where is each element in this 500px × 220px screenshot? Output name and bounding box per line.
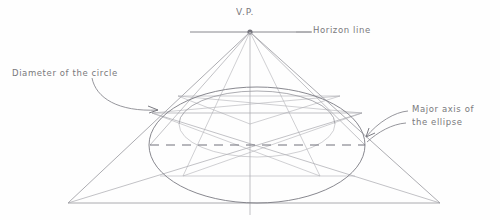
major-axis-label: Major axis of the ellipse [412, 103, 474, 129]
diameter-of-circle-label: Diameter of the circle [12, 67, 118, 80]
horizon-line-label: Horizon line [313, 24, 371, 37]
diameter-arrowhead [148, 106, 158, 113]
major-axis-label-line1: Major axis of [412, 104, 474, 114]
perspective-ray-left-outer [68, 32, 250, 203]
diameter-leader-line [92, 78, 158, 110]
perspective-ray-right-inner [250, 32, 365, 145]
major-axis-leader-line [366, 111, 408, 137]
major-axis-label-line2: the ellipse [412, 116, 474, 129]
perspective-diagram: .ink { stroke: #97979d; fill: none; stro… [0, 0, 500, 220]
vanishing-point-label: V.P. [236, 6, 254, 20]
diagonal-left-to-upper-right [68, 113, 362, 203]
perspective-ray-left-mid [183, 32, 250, 176]
major-axis-leader-line-secondary [367, 123, 406, 142]
